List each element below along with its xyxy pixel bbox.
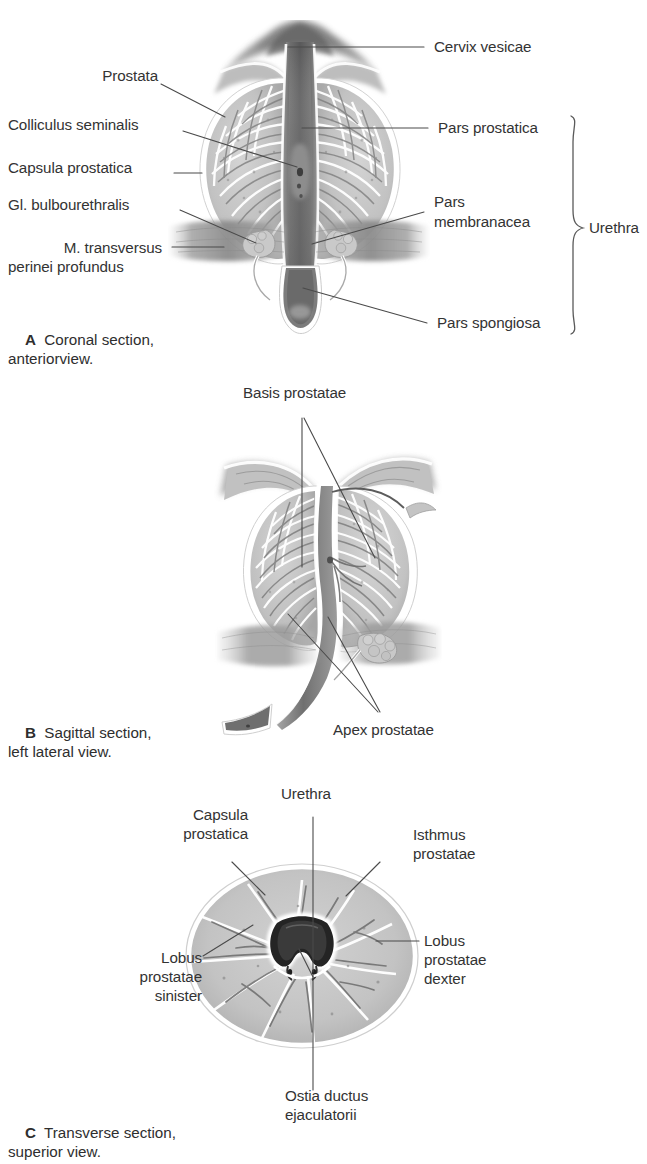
label-isthmus-line2: prostatae: [413, 844, 475, 864]
label-capsula-prostatica: Capsula prostatica: [8, 158, 132, 178]
caption-a-line2: anteriorview.: [8, 350, 93, 367]
label-lobus-sinister-line1: Lobus: [80, 948, 202, 968]
urethra-brace: [571, 116, 583, 334]
label-m-transversus-line1: M. transversus: [0, 238, 162, 258]
caption-letter-c: C: [25, 1124, 36, 1141]
label-pars-prostatica: Pars prostatica: [438, 118, 538, 138]
label-pars-membranacea-line1: Pars: [434, 192, 465, 212]
label-lobus-sinister-line2: prostatae: [80, 967, 202, 987]
label-lobus-dexter-line1: Lobus: [424, 931, 465, 951]
label-lobus-dexter-line2: prostatae: [424, 950, 486, 970]
panel-c-illustration: [178, 862, 426, 1050]
label-lobus-sinister-line3: sinister: [80, 986, 202, 1006]
caption-panel-a: A Coronal section,anteriorview.: [8, 310, 154, 388]
label-pars-spongiosa: Pars spongiosa: [437, 313, 540, 333]
label-ostia-line2: ejaculatorii: [285, 1105, 356, 1125]
caption-panel-c: C Transverse section,superior view.: [8, 1103, 176, 1164]
panel-a-illustration: [168, 20, 430, 345]
label-ostia-line1: Ostia ductus: [285, 1086, 368, 1106]
label-urethra-c: Urethra: [281, 784, 331, 804]
caption-c-line1: Transverse section,: [44, 1124, 176, 1141]
caption-letter-b: B: [25, 724, 36, 741]
label-capsula-c-line2: prostatica: [120, 824, 248, 844]
caption-panel-b: B Sagittal section,left lateral view.: [8, 703, 152, 781]
caption-b-line2: left lateral view.: [8, 743, 112, 760]
label-gl-bulbourethralis: Gl. bulbourethralis: [8, 195, 129, 215]
label-apex-prostatae: Apex prostatae: [333, 720, 434, 740]
label-basis-prostatae: Basis prostatae: [243, 383, 346, 403]
panel-b-illustration: [214, 440, 442, 740]
label-lobus-dexter-line3: dexter: [424, 969, 466, 989]
caption-a-line1: Coronal section,: [44, 331, 154, 348]
caption-letter-a: A: [25, 331, 36, 348]
label-cervix-vesicae: Cervix vesicae: [434, 37, 531, 57]
label-urethra-brace: Urethra: [589, 218, 639, 238]
label-m-transversus-line2: perinei profundus: [8, 257, 124, 277]
label-colliculus-seminalis: Colliculus seminalis: [8, 115, 139, 135]
caption-c-line2: superior view.: [8, 1143, 101, 1160]
label-pars-membranacea-line2: membranacea: [434, 212, 530, 232]
label-isthmus-line1: Isthmus: [413, 825, 465, 845]
caption-b-line1: Sagittal section,: [44, 724, 151, 741]
label-prostata: Prostata: [0, 66, 158, 86]
label-capsula-c-line1: Capsula: [120, 805, 248, 825]
